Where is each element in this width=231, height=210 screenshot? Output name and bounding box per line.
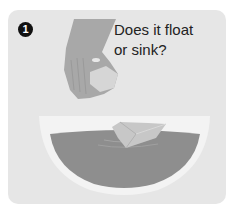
- question-line-2: or sink?: [114, 40, 214, 60]
- question-text: Does it float or sink?: [114, 20, 214, 60]
- step-number-badge: 1: [18, 22, 33, 37]
- question-line-1: Does it float: [114, 20, 214, 40]
- hand-holding-object-icon: [64, 19, 118, 99]
